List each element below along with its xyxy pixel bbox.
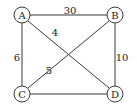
node-b: B xyxy=(107,7,123,23)
node-label-a: A xyxy=(17,10,26,21)
graph-diagram: 30 4 6 5 10 A B C D xyxy=(0,0,137,110)
node-label-b: B xyxy=(111,10,118,21)
edge-label-a-c: 6 xyxy=(14,52,20,63)
edge-label-a-b: 30 xyxy=(64,5,77,16)
edge-label-a-d: 4 xyxy=(52,27,58,38)
node-label-d: D xyxy=(111,89,119,100)
node-label-c: C xyxy=(18,89,26,100)
edge-label-b-d: 10 xyxy=(116,52,129,63)
edge-label-c-b: 5 xyxy=(46,65,52,76)
node-d: D xyxy=(107,86,123,102)
edges xyxy=(22,15,115,94)
node-c: C xyxy=(14,86,30,102)
node-a: A xyxy=(14,7,30,23)
